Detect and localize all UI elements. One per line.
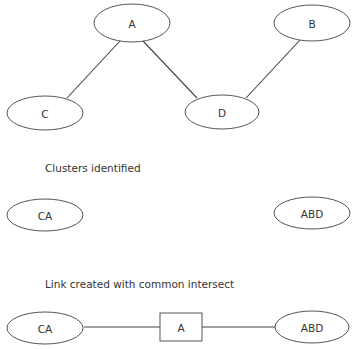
link-node-abd-label: ABD — [301, 322, 323, 334]
clusters-caption: Clusters identified — [45, 162, 141, 174]
node-a-label: A — [128, 18, 136, 30]
node-b: B — [274, 5, 350, 41]
cluster-ca-label: CA — [38, 210, 53, 222]
intersect-box-a: A — [160, 313, 202, 341]
node-a: A — [94, 4, 170, 42]
edge-a-d — [143, 41, 197, 98]
node-d-label: D — [218, 107, 226, 119]
link-node-ca: CA — [7, 312, 83, 344]
link-node-abd: ABD — [275, 311, 349, 343]
cluster-ca: CA — [7, 199, 83, 231]
node-d: D — [185, 95, 259, 129]
cluster-diagram: A B C D Clusters identified CA ABD Link … — [0, 0, 360, 349]
link-caption: Link created with common intersect — [45, 278, 234, 290]
edge-b-d — [246, 40, 300, 98]
node-b-label: B — [308, 18, 315, 30]
edge-a-c — [67, 41, 120, 98]
cluster-abd: ABD — [274, 197, 350, 229]
cluster-abd-label: ABD — [301, 208, 323, 220]
node-c-label: C — [41, 108, 48, 120]
node-c: C — [7, 96, 83, 130]
intersect-box-label: A — [177, 322, 185, 334]
link-node-ca-label: CA — [38, 323, 53, 335]
